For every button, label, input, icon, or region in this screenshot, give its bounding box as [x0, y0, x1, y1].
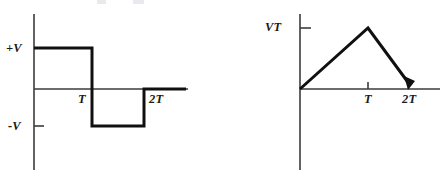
- y-label-vt: VT: [265, 21, 281, 34]
- y-label-negative-v: -V: [8, 120, 21, 133]
- square-wave-trace: [34, 48, 186, 126]
- y-label-positive-v: +V: [6, 42, 22, 55]
- triangle-wave-plot: [223, 0, 446, 175]
- triangle-wave-trace: [300, 28, 410, 89]
- x-label-2t: 2T: [402, 93, 416, 106]
- ramp-end-arrow-icon: [404, 76, 415, 90]
- x-label-2t: 2T: [149, 93, 163, 106]
- square-wave-plot: [0, 0, 223, 175]
- x-label-t: T: [364, 93, 372, 106]
- triangle-wave-chart: VT T 2T: [223, 0, 446, 175]
- x-label-t: T: [78, 93, 86, 106]
- square-wave-chart: +V -V T 2T: [0, 0, 223, 175]
- figure-root: +V -V T 2T VT T 2T: [0, 0, 446, 175]
